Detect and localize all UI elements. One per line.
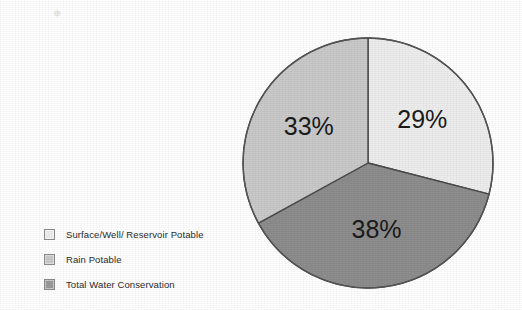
legend-label-rain-potable: Rain Potable xyxy=(66,254,122,265)
pie-chart-figure: ✵ 29% 38% 33% Surface/Well/ Reservoir Po… xyxy=(0,0,522,310)
pie-chart-svg: 29% 38% 33% xyxy=(242,37,494,289)
chart-legend: Surface/Well/ Reservoir Potable Rain Pot… xyxy=(44,222,254,297)
pie-slice-label-29: 29% xyxy=(397,105,447,133)
pie-chart: 29% 38% 33% xyxy=(242,37,494,289)
legend-swatch-surface-well-reservoir-potable xyxy=(44,229,55,240)
legend-swatch-rain-potable xyxy=(44,254,55,265)
pie-slices xyxy=(243,38,493,288)
pie-slice-label-38: 38% xyxy=(352,215,402,243)
legend-item-rain-potable[interactable]: Rain Potable xyxy=(44,247,254,272)
pie-slice-label-33: 33% xyxy=(284,112,334,140)
legend-item-surface-well-reservoir-potable[interactable]: Surface/Well/ Reservoir Potable xyxy=(44,222,254,247)
scan-speck: ✵ xyxy=(53,9,61,18)
legend-item-total-water-conservation[interactable]: Total Water Conservation xyxy=(44,272,254,297)
legend-label-surface-well-reservoir-potable: Surface/Well/ Reservoir Potable xyxy=(66,229,204,240)
legend-swatch-total-water-conservation xyxy=(44,279,55,290)
legend-label-total-water-conservation: Total Water Conservation xyxy=(66,279,175,290)
